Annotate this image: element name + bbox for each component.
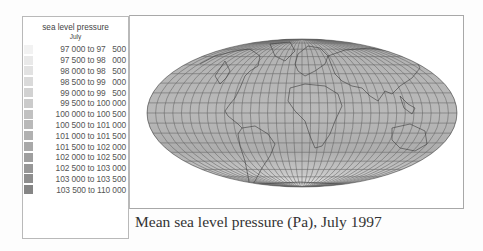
legend-swatch bbox=[24, 142, 33, 151]
legend-item: 97 500 to 98 000 bbox=[23, 55, 128, 66]
legend-label: 102 000 to 102 500 bbox=[56, 152, 126, 162]
legend-swatch bbox=[24, 56, 33, 65]
legend-label: 97 000 to 97 500 bbox=[60, 44, 126, 54]
legend-label: 100 500 to 101 000 bbox=[56, 120, 126, 130]
legend-item: 102 000 to 102 500 bbox=[23, 152, 128, 163]
legend-swatch bbox=[24, 153, 33, 162]
legend-item: 98 000 to 98 500 bbox=[23, 66, 128, 77]
legend-label: 97 500 to 98 000 bbox=[60, 55, 126, 65]
legend-item: 103 500 to 110 000 bbox=[23, 184, 128, 195]
legend-swatch bbox=[24, 120, 33, 129]
legend-swatch bbox=[24, 131, 33, 140]
legend-item: 98 500 to 99 000 bbox=[23, 76, 128, 87]
legend-swatch bbox=[24, 110, 33, 119]
legend-item: 99 500 to 100 000 bbox=[23, 98, 128, 109]
legend-swatch bbox=[24, 66, 33, 75]
legend-item: 101 500 to 102 000 bbox=[23, 141, 128, 152]
legend-label: 98 000 to 98 500 bbox=[60, 66, 126, 76]
legend-item: 100 500 to 101 000 bbox=[23, 120, 128, 131]
legend-swatch bbox=[24, 174, 33, 183]
legend-swatch bbox=[24, 185, 33, 194]
legend-label: 100 000 to 100 500 bbox=[56, 109, 126, 119]
legend-item: 100 000 to 100 500 bbox=[23, 109, 128, 120]
legend-subtitle: July bbox=[23, 33, 128, 41]
legend-item: 103 000 to 103 500 bbox=[23, 174, 128, 185]
legend-item: 102 500 to 103 000 bbox=[23, 163, 128, 174]
legend-label: 99 500 to 100 000 bbox=[60, 98, 126, 108]
legend-label: 103 500 to 110 000 bbox=[56, 185, 126, 195]
map-caption: Mean sea level pressure (Pa), July 1997 bbox=[135, 213, 382, 231]
legend-item: 99 000 to 99 500 bbox=[23, 87, 128, 98]
legend-swatch bbox=[24, 77, 33, 86]
legend-item: 97 000 to 97 500 bbox=[23, 44, 128, 55]
legend-items: 97 000 to 97 50097 500 to 98 00098 000 t… bbox=[23, 44, 128, 195]
legend-swatch bbox=[24, 45, 33, 54]
legend-swatch bbox=[24, 99, 33, 108]
map-globe bbox=[130, 16, 463, 208]
legend-label: 101 500 to 102 000 bbox=[56, 142, 126, 152]
legend-label: 99 000 to 99 500 bbox=[60, 88, 126, 98]
legend-label: 101 000 to 101 500 bbox=[56, 131, 126, 141]
map-frame bbox=[129, 15, 464, 209]
legend-item: 101 000 to 101 500 bbox=[23, 130, 128, 141]
legend-label: 102 500 to 103 000 bbox=[56, 163, 126, 173]
legend-swatch bbox=[24, 164, 33, 173]
legend-title: sea level pressure bbox=[23, 23, 128, 33]
legend-label: 103 000 to 103 500 bbox=[56, 174, 126, 184]
legend: sea level pressure July 97 000 to 97 500… bbox=[22, 16, 129, 239]
world-map bbox=[130, 16, 463, 208]
legend-swatch bbox=[24, 88, 33, 97]
legend-label: 98 500 to 99 000 bbox=[60, 77, 126, 87]
